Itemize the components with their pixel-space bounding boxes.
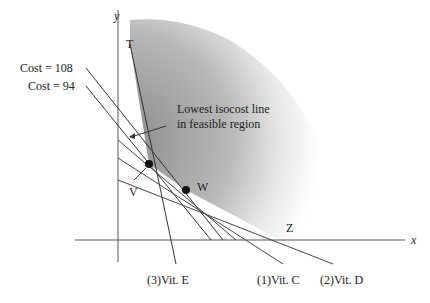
point-v-label: V xyxy=(129,186,138,198)
point-v xyxy=(145,160,153,168)
point-w-label: W xyxy=(197,181,208,193)
vit-e-label: (3)Vit. E xyxy=(147,274,189,286)
lowest-isocost-label-2: in feasible region xyxy=(177,118,260,130)
cost-94-label: Cost = 94 xyxy=(28,80,75,92)
lowest-isocost-label-1: Lowest isocost line xyxy=(177,103,270,115)
vit-c-label: (1)Vit. C xyxy=(257,274,300,286)
point-w xyxy=(182,186,190,194)
point-t-label: T xyxy=(126,38,133,50)
y-axis-label: y xyxy=(114,10,119,22)
isocost-diagram xyxy=(0,0,430,303)
x-axis-label: x xyxy=(411,234,416,246)
vit-d-label: (2)Vit. D xyxy=(320,274,363,286)
cost-108-label: Cost = 108 xyxy=(20,62,73,74)
arrowhead xyxy=(129,133,135,139)
point-z-label: Z xyxy=(286,222,293,234)
